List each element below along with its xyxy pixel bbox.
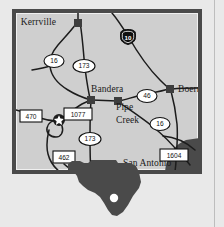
route-shield-sh173-south[interactable]: 173 [79, 133, 101, 146]
city-label-bandera: Bandera [91, 84, 124, 94]
shield-label: 462 [58, 154, 69, 161]
shield-label: 46 [143, 92, 151, 99]
route-shield-sh16-south[interactable]: 16 [150, 118, 170, 131]
shield-label: 470 [25, 113, 36, 120]
shield-label: 1077 [71, 111, 86, 118]
city-label-pipe: Pipe [116, 102, 133, 112]
route-shield-sh16-north[interactable]: 16 [44, 55, 64, 68]
shield-label: 173 [84, 135, 95, 142]
route-shield-loop1604[interactable]: 1604 [160, 149, 188, 161]
route-shield-sh46[interactable]: 46 [137, 90, 157, 103]
city-marker-boerne [166, 85, 174, 93]
city-label-kerrville: Kerrville [21, 17, 56, 27]
texas-outline-icon [68, 160, 141, 216]
map-page: Kerrville Bandera Boerne Pipe Creek San … [0, 0, 224, 227]
route-shield-fm462[interactable]: 462 [53, 151, 75, 163]
point-of-interest-star[interactable] [53, 114, 65, 126]
shield-label: 173 [78, 62, 89, 69]
shield-label: 1604 [167, 152, 182, 159]
route-shield-fm1077[interactable]: 1077 [64, 108, 92, 120]
route-shield-i10[interactable]: 10 [121, 30, 136, 45]
road-bandera-pipecreek [92, 100, 117, 101]
shield-label: 10 [125, 34, 132, 41]
route-shield-fm470[interactable]: 470 [20, 110, 42, 122]
shield-label: 16 [156, 120, 164, 127]
city-marker-kerrville [74, 19, 82, 27]
inset-location-dot [110, 194, 118, 202]
route-shield-sh173-north[interactable]: 173 [73, 60, 95, 73]
map-figure: Kerrville Bandera Boerne Pipe Creek San … [0, 0, 224, 227]
city-marker-bandera [87, 96, 95, 104]
shield-label: 16 [50, 57, 58, 64]
texas-inset [68, 160, 141, 216]
map-canvas: Kerrville Bandera Boerne Pipe Creek San … [0, 0, 224, 227]
city-label-creek: Creek [116, 115, 139, 125]
